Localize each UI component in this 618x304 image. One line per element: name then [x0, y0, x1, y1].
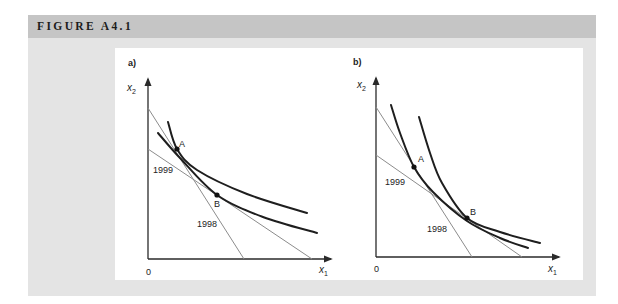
origin-label: 0 [374, 264, 379, 274]
indifference-curve-through-a [391, 105, 528, 248]
budget-line-1998 [148, 108, 244, 259]
budget-label-1999: 1999 [153, 165, 173, 175]
origin-label: 0 [146, 267, 151, 277]
budget-label-1998: 1998 [427, 224, 447, 234]
point-b-label: B [470, 207, 476, 217]
x-axis-label: x1 [547, 263, 557, 276]
point-a-label: A [179, 139, 185, 149]
budget-label-1999: 1999 [385, 177, 405, 187]
point-b-label: B [214, 199, 220, 209]
panel-b-label: b) [353, 57, 362, 67]
point-a-label: A [418, 154, 424, 164]
panel-a-label: a) [128, 58, 136, 68]
figure-svg: a) x2 x1 0 1998 1999 A B b) x2 x1 0 1998… [0, 0, 618, 304]
point-b [214, 192, 219, 197]
panel-a: a) x2 x1 0 1998 1999 A B [126, 58, 331, 277]
panel-b: b) x2 x1 0 1998 1999 A B [353, 57, 559, 276]
point-a [411, 164, 416, 169]
y-axis-label: x2 [126, 82, 136, 95]
x-axis-label: x1 [318, 264, 328, 277]
point-b [464, 215, 469, 220]
budget-label-1998: 1998 [197, 219, 217, 229]
y-axis-label: x2 [356, 79, 366, 92]
